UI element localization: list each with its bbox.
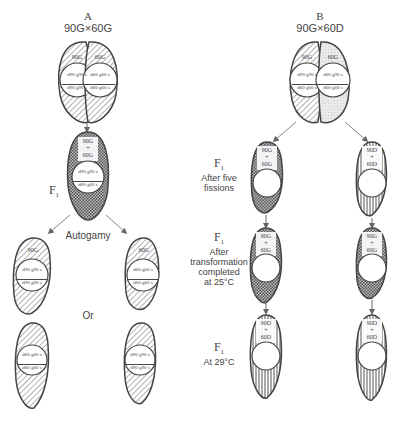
genotype-top: d90 g90 s (73, 169, 103, 175)
f1-serotypes: 90G+60G (78, 138, 98, 159)
arrow-b-left (275, 122, 296, 140)
autogamy-label: Autogamy (60, 231, 116, 241)
genotype-top: d90 g90 s (17, 267, 47, 273)
row-label-after-five-fissions: F1 After five fissions (190, 158, 248, 193)
serotype-label: 60G (133, 245, 155, 255)
panel-a-letter: A (70, 11, 106, 22)
genotype-bottom: d60 g60 s (318, 84, 348, 91)
serotype-stack: 90G+60G (362, 233, 382, 254)
panel-b-cross: 90G×60D (290, 23, 350, 34)
serotype-stack: 90D+60D (362, 320, 382, 341)
serotype-label: 90G (296, 52, 318, 62)
genotype-bottom: d60 g60 s (73, 181, 103, 188)
genotype-bottom: d60 g60 s (128, 279, 158, 286)
genotype-top: d60 g60 s (128, 267, 158, 273)
serotype-stack: 90D+60D (362, 147, 382, 168)
genotype-bottom: d90 g90 s (125, 364, 155, 371)
genotype-bottom: d60 g60 s (85, 84, 115, 91)
serotype-stack: 90G+60G (256, 233, 276, 254)
panel-a-cross: 90G×60G (58, 23, 118, 34)
genotype-top: d60 g90 s (318, 72, 348, 78)
serotype-label: 60G (322, 52, 344, 62)
f1-label: F1 (44, 185, 64, 200)
panel-b-letter: B (302, 11, 338, 22)
serotype-stack: 90G+60G (257, 147, 277, 168)
genotype-top: d60 g60 s (85, 72, 115, 78)
row-label-29c: F1 At 29°C (190, 342, 248, 367)
or-label: Or (76, 311, 100, 321)
row-label-transformation-25c: F1 After transformation completed at 25°… (186, 232, 252, 287)
arrow-b-right (345, 122, 366, 140)
serotype-label: 90G (22, 245, 44, 255)
serotype-stack: 90D+60D (256, 320, 276, 341)
genotype-top: d60 g60 s (17, 352, 47, 358)
genotype-bottom: d60 g60 s (17, 364, 47, 371)
serotype-label: 90G (66, 52, 88, 62)
serotype-label: 60G (89, 52, 111, 62)
genotype-top: d90 g90 s (125, 352, 155, 358)
genotype-bottom: d90 g90 s (17, 279, 47, 286)
